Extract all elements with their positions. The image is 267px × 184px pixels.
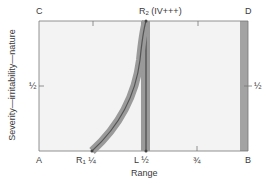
r2-sub: 2: [146, 10, 149, 16]
corner-a: A: [36, 155, 42, 165]
corner-c: C: [36, 6, 43, 16]
y-axis-title: Severity—irritability—nature: [7, 25, 17, 145]
quarter-tick-label: ¼: [88, 155, 96, 165]
x-axis-title: Range: [131, 168, 158, 178]
r1-label: R1 ¼: [76, 155, 96, 167]
r1-sub: 1: [83, 159, 86, 165]
r1-point: [91, 150, 94, 153]
right-half-label: ½: [254, 81, 262, 91]
l-label: L ½: [134, 155, 149, 165]
left-half-label: ½: [29, 81, 37, 91]
three-quarter-label: ¾: [193, 155, 201, 165]
half-tick-label: ½: [141, 155, 149, 165]
corner-b: B: [245, 155, 251, 165]
r2-label: R2 (IV+++): [139, 6, 182, 18]
corner-d: D: [245, 6, 252, 16]
l-letter: L: [134, 155, 139, 165]
r2-point: [145, 20, 148, 23]
r2-grade: (IV+++): [151, 6, 181, 16]
l-point: [145, 150, 148, 153]
